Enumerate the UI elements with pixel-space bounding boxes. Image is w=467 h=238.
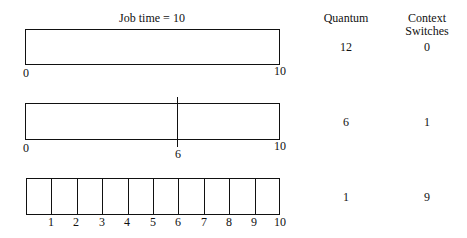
slice-divider [102, 179, 103, 214]
tick-label: 1 [48, 215, 54, 229]
slice-divider [255, 179, 256, 214]
tick-label: 8 [226, 215, 232, 229]
slice-divider [204, 179, 205, 214]
tick-label-end: 10 [274, 215, 286, 229]
slice-divider [153, 179, 154, 214]
tick-label: 3 [99, 215, 105, 229]
tick-label-end: 10 [274, 139, 286, 153]
quantum-value: 6 [343, 115, 349, 129]
slice-divider [77, 179, 78, 214]
tick-label: 9 [251, 215, 257, 229]
tick-label: 2 [73, 215, 79, 229]
context-switches-header-line1: Context [408, 11, 446, 25]
slice-divider [128, 179, 129, 214]
tick-label: 4 [124, 215, 130, 229]
context-switches-value: 1 [424, 115, 430, 129]
preemption-divider [177, 97, 178, 147]
tick-label: 7 [201, 215, 207, 229]
quantum-value: 1 [343, 190, 349, 204]
tick-label-start: 0 [23, 141, 29, 155]
slice-divider [229, 179, 230, 214]
quantum-header: Quantum [324, 11, 369, 25]
tick-label-end: 10 [274, 64, 286, 78]
quantum-value: 12 [340, 40, 352, 54]
slice-divider [178, 179, 179, 214]
tick-label-start: 0 [23, 66, 29, 80]
diagram-title: Job time = 10 [119, 11, 185, 25]
tick-label-split: 6 [175, 147, 181, 161]
tick-label: 5 [150, 215, 156, 229]
job-bar-quantum-6 [25, 103, 280, 140]
context-switches-value: 9 [424, 190, 430, 204]
job-bar-quantum-12 [25, 29, 280, 65]
slice-divider [51, 179, 52, 214]
job-bar-quantum-1 [26, 178, 280, 215]
context-switches-header-line2: Switches [405, 24, 448, 38]
context-switches-value: 0 [424, 40, 430, 54]
tick-label: 6 [175, 215, 181, 229]
